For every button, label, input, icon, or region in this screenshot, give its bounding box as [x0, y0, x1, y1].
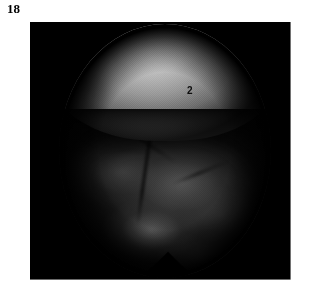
figure-plate: 18 2 [0, 0, 309, 291]
photograph-panel: 2 [30, 22, 291, 280]
annotation-label-2: 2 [187, 86, 193, 96]
panel-edge-right [290, 22, 291, 280]
panel-edge-bottom [30, 279, 291, 280]
figure-number: 18 [7, 1, 20, 16]
field-vignette [59, 24, 271, 278]
circular-field-wrapper [30, 22, 291, 280]
circular-endoscopic-field [59, 24, 271, 278]
